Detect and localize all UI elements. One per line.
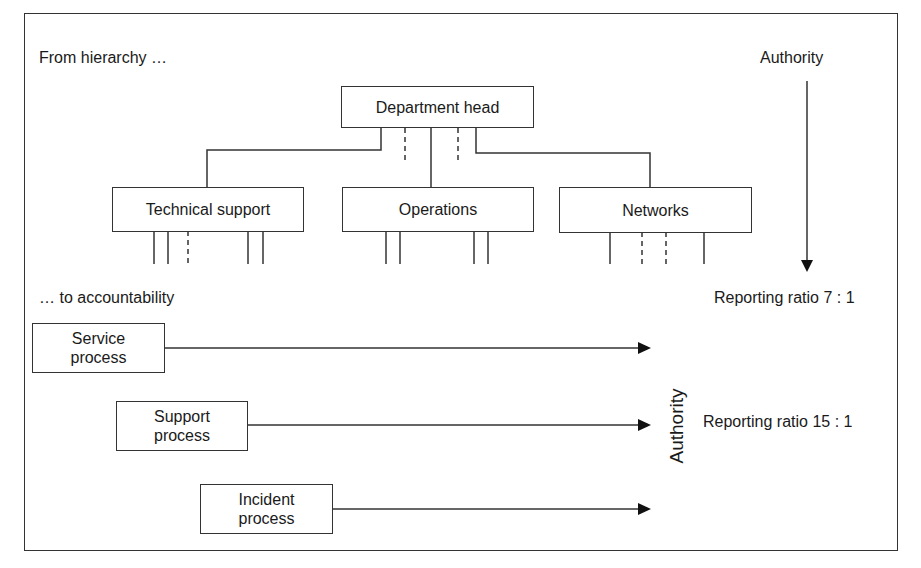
- reporting-ratio-top: Reporting ratio 7 : 1: [714, 288, 855, 307]
- reporting-ratio-bottom: Reporting ratio 15 : 1: [703, 412, 852, 431]
- connector-dept-to-technical: [207, 127, 381, 187]
- node-department-head: Department head: [341, 86, 534, 128]
- diagram-canvas: From hierarchy … Authority Reporting rat…: [0, 0, 921, 568]
- process-label-line1: Incident: [238, 490, 294, 509]
- process-service: Service process: [32, 323, 165, 373]
- process-label-line2: process: [154, 426, 210, 445]
- process-support: Support process: [116, 401, 248, 451]
- authority-label-vertical: Authority: [666, 375, 688, 477]
- process-label-line2: process: [70, 348, 126, 367]
- node-operations: Operations: [342, 187, 534, 232]
- process-label-line1: Support: [154, 407, 210, 426]
- node-networks: Networks: [559, 187, 752, 233]
- node-label: Department head: [376, 98, 500, 117]
- node-label: Networks: [622, 201, 689, 220]
- heading-to-accountability: … to accountability: [39, 288, 174, 307]
- process-incident: Incident process: [200, 484, 333, 534]
- connector-dept-to-networks: [476, 127, 650, 187]
- heading-from-hierarchy: From hierarchy …: [39, 48, 167, 67]
- process-label-line2: process: [238, 509, 294, 528]
- node-label: Operations: [399, 200, 477, 219]
- authority-label-top: Authority: [760, 48, 823, 67]
- node-technical-support: Technical support: [112, 187, 304, 232]
- process-label-line1: Service: [72, 329, 125, 348]
- node-label: Technical support: [146, 200, 271, 219]
